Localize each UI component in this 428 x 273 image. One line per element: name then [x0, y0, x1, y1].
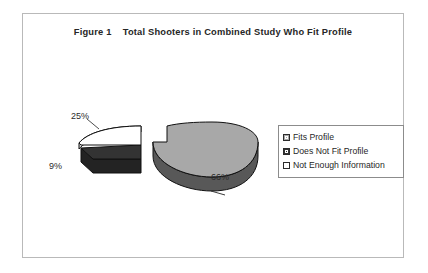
- pie-chart: 25% 9% 66% Fits Profile Does Not Fit Pro…: [23, 14, 405, 259]
- legend-label-fits-profile: Fits Profile: [293, 133, 334, 142]
- pie-slice-does-not-fit-top: [81, 145, 141, 159]
- chart-legend: Fits Profile Does Not Fit Profile Not En…: [278, 125, 404, 178]
- data-label-does-not-fit-profile: 9%: [49, 161, 62, 171]
- pie-slice-not-enough-top: [79, 126, 141, 145]
- legend-label-does-not-fit-profile: Does Not Fit Profile: [293, 147, 368, 156]
- legend-item-fits-profile[interactable]: Fits Profile: [283, 131, 400, 144]
- data-label-not-enough-information: 25%: [71, 111, 89, 121]
- figure-frame: Figure 1 Total Shooters in Combined Stud…: [22, 13, 404, 258]
- legend-swatch-gray-icon: [283, 134, 290, 141]
- data-label-fits-profile: 66%: [211, 172, 229, 182]
- legend-item-not-enough-information[interactable]: Not Enough Information: [283, 159, 400, 172]
- leader-line-fits-profile: [211, 191, 225, 195]
- legend-item-does-not-fit-profile[interactable]: Does Not Fit Profile: [283, 145, 400, 158]
- legend-swatch-dark-icon: [283, 148, 290, 155]
- legend-label-not-enough-information: Not Enough Information: [293, 161, 385, 170]
- legend-swatch-white-icon: [283, 162, 290, 169]
